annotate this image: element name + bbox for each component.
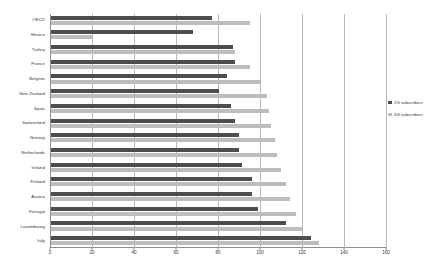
legend-item[interactable]: 2G subscribers — [388, 100, 423, 105]
bar-group — [51, 88, 386, 100]
bar-group — [51, 43, 386, 55]
plot-area — [50, 14, 386, 248]
legend-item[interactable]: 3G subscribers — [388, 112, 423, 117]
category-label: New Zealand — [0, 88, 48, 100]
category-label: Italy — [0, 235, 48, 247]
bar — [51, 80, 260, 84]
bar — [51, 138, 275, 142]
bar — [51, 104, 231, 108]
bar — [51, 50, 235, 54]
bar — [51, 119, 235, 123]
bar — [51, 163, 242, 167]
x-tick-label: 140 — [340, 250, 348, 255]
bar — [51, 148, 239, 152]
bar — [51, 109, 269, 113]
category-label: France — [0, 58, 48, 70]
bar-group — [51, 190, 386, 202]
x-tick-label: 160 — [382, 250, 390, 255]
category-label: Mexico — [0, 29, 48, 41]
bar-group — [51, 73, 386, 85]
bar — [51, 221, 286, 225]
bar — [51, 212, 296, 216]
bar-group — [51, 176, 386, 188]
category-label: Netherlands — [0, 147, 48, 159]
bar — [51, 60, 235, 64]
bar-group — [51, 146, 386, 158]
category-label: Portugal — [0, 206, 48, 218]
category-label: Austria — [0, 191, 48, 203]
bar — [51, 177, 252, 181]
legend-swatch-icon — [388, 113, 392, 117]
x-tick-label: 80 — [215, 250, 220, 255]
bar-group — [51, 102, 386, 114]
bar — [51, 227, 302, 231]
category-label: Switzerland — [0, 117, 48, 129]
bar — [51, 192, 252, 196]
bar — [51, 168, 281, 172]
gridline — [386, 14, 387, 248]
category-label: Finland — [0, 176, 48, 188]
legend-swatch-icon — [388, 101, 392, 105]
legend-label: 2G subscribers — [394, 100, 423, 105]
bar — [51, 241, 319, 245]
bar-group — [51, 205, 386, 217]
bar — [51, 89, 219, 93]
x-tick-label: 120 — [298, 250, 306, 255]
category-label: OECD — [0, 14, 48, 26]
bar-rows — [51, 14, 386, 247]
x-tick-label: 40 — [131, 250, 136, 255]
bar-group — [51, 29, 386, 41]
bar-chart: OECDMexicoTurkeyFranceBelgiumNew Zealand… — [0, 0, 442, 274]
bar — [51, 30, 193, 34]
bar — [51, 74, 227, 78]
category-label: Belgium — [0, 73, 48, 85]
x-axis-ticks: 020406080100120140160 — [50, 250, 386, 262]
category-label: Spain — [0, 103, 48, 115]
bar — [51, 207, 258, 211]
category-label: Norway — [0, 132, 48, 144]
bar-group — [51, 235, 386, 247]
bar — [51, 236, 311, 240]
bar — [51, 94, 267, 98]
x-tick-label: 0 — [49, 250, 52, 255]
bar-group — [51, 161, 386, 173]
bar — [51, 16, 212, 20]
bar-group — [51, 58, 386, 70]
bar-group — [51, 220, 386, 232]
bar — [51, 182, 286, 186]
x-tick-label: 100 — [256, 250, 264, 255]
legend-label: 3G subscribers — [394, 112, 423, 117]
bar — [51, 133, 239, 137]
category-label: Turkey — [0, 44, 48, 56]
bar — [51, 35, 93, 39]
bar — [51, 197, 290, 201]
bar — [51, 65, 250, 69]
category-axis-labels: OECDMexicoTurkeyFranceBelgiumNew Zealand… — [0, 14, 48, 248]
bar — [51, 21, 250, 25]
category-label: Ireland — [0, 162, 48, 174]
bar-group — [51, 132, 386, 144]
x-tick-label: 60 — [173, 250, 178, 255]
bar-group — [51, 14, 386, 26]
bar — [51, 153, 277, 157]
bar — [51, 124, 271, 128]
category-label: Luxembourg — [0, 221, 48, 233]
chart-legend: 2G subscribers3G subscribers — [388, 100, 423, 117]
x-tick-label: 20 — [89, 250, 94, 255]
bar-group — [51, 117, 386, 129]
bar — [51, 45, 233, 49]
